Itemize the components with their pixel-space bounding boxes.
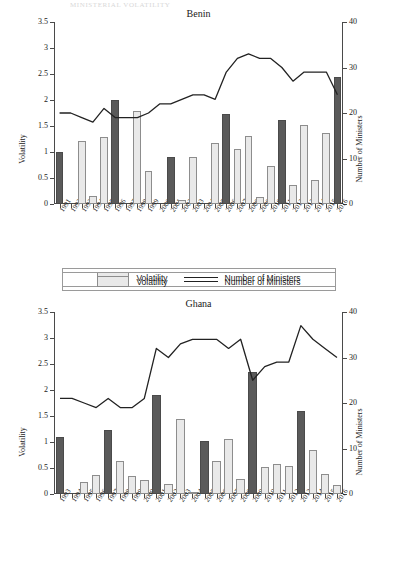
- y-axis-title-right-ghana: Number of Ministers: [355, 408, 364, 475]
- y-tick-label-right: 20: [349, 109, 357, 117]
- y-tick-label-left: 1.5: [38, 412, 48, 420]
- y-tick-label-left: 2: [44, 386, 48, 394]
- plot-area-ghana: 00.511.522.533.5010203040199319941995199…: [54, 312, 343, 494]
- chart-title-ghana: Ghana: [0, 298, 397, 309]
- y-tick-right: [343, 159, 347, 160]
- y-tick-label-left: 3.5: [38, 18, 48, 26]
- y-tick-label-right: 10: [349, 155, 357, 163]
- y-tick-label-right: 30: [349, 64, 357, 72]
- y-tick-label-left: 0.5: [38, 464, 48, 472]
- y-tick-right: [343, 312, 347, 313]
- y-tick-label-left: 3: [44, 334, 48, 342]
- y-tick-label-left: 1: [44, 148, 48, 156]
- y-tick-right: [343, 68, 347, 69]
- legend-ghana: Volatility Number of Ministers: [62, 272, 336, 291]
- cut-off-header-text: MINISTERIAL VOLATILITY: [70, 1, 310, 8]
- y-tick-label-left: 0: [44, 490, 48, 498]
- chart-title-benin: Benin: [0, 8, 397, 19]
- legend-label-ministers: Number of Ministers: [225, 277, 301, 287]
- y-tick-label-left: 2: [44, 96, 48, 104]
- y-tick-label-left: 2.5: [38, 70, 48, 78]
- y-tick-label-right: 30: [349, 354, 357, 362]
- y-tick-label-right: 40: [349, 18, 357, 26]
- y-tick-right: [343, 358, 347, 359]
- y-axis-title-right-benin: Number of Ministers: [355, 115, 364, 182]
- y-axis-title-left-benin: Volatility: [18, 134, 27, 164]
- y-tick-label-left: 3: [44, 44, 48, 52]
- y-tick-label-left: 1: [44, 438, 48, 446]
- y-tick-right: [343, 403, 347, 404]
- plot-area-benin: 00.511.522.533.5010203040199119921993199…: [54, 22, 343, 204]
- y-tick-label-left: 0: [44, 200, 48, 208]
- legend-label-volatility: Volatility: [136, 277, 167, 287]
- y-tick-label-left: 0.5: [38, 174, 48, 182]
- legend-item-ministers-ghana: Number of Ministers: [184, 277, 301, 287]
- y-tick-label-right: 10: [349, 445, 357, 453]
- y-tick-right: [343, 22, 347, 23]
- y-tick-left: [50, 494, 54, 495]
- legend-swatch-icon: [97, 276, 129, 287]
- figure-root: MINISTERIAL VOLATILITY Benin Volatility …: [0, 0, 397, 586]
- y-tick-label-left: 2.5: [38, 360, 48, 368]
- legend-item-volatility-ghana: Volatility: [97, 276, 167, 287]
- y-tick-right: [343, 113, 347, 114]
- y-tick-label-left: 1.5: [38, 122, 48, 130]
- chart-panel-ghana: Ghana Volatility Number of Ministers 00.…: [0, 298, 397, 586]
- y-tick-label-left: 3.5: [38, 308, 48, 316]
- ministers-line: [54, 312, 343, 494]
- y-axis-title-left-ghana: Volatility: [18, 427, 27, 457]
- chart-panel-benin: Benin Volatility Number of Ministers 00.…: [0, 8, 397, 290]
- legend-line-icon: [184, 281, 218, 282]
- y-tick-right: [343, 449, 347, 450]
- y-tick-label-right: 40: [349, 308, 357, 316]
- y-tick-label-right: 20: [349, 399, 357, 407]
- y-tick-left: [50, 204, 54, 205]
- ministers-line: [54, 22, 343, 204]
